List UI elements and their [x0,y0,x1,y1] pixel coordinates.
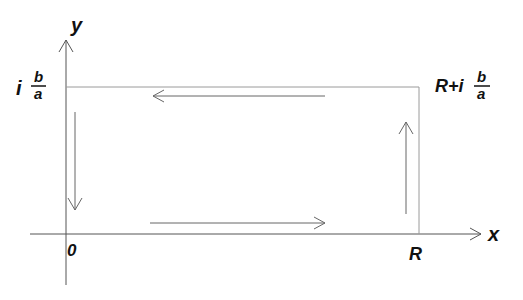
real-corner-label: R [409,244,422,264]
top-right-corner-label: R+i b a [435,68,490,102]
flow-arrow-left-down [68,112,82,210]
top-right-numerator: b [477,68,486,85]
x-axis-label: x [487,223,500,245]
origin-label: 0 [67,241,77,260]
top-right-denominator: a [477,85,485,102]
flow-arrow-top-left [153,90,325,102]
imag-corner-label: i b a [16,68,46,102]
imag-numerator: b [34,68,43,85]
x-axis [30,228,481,240]
flow-arrow-right-up [399,122,413,214]
contour-diagram: y x 0 R i b a R+i b a [0,0,523,300]
imag-prefix: i [16,77,22,99]
imag-denominator: a [34,85,42,102]
y-axis-label: y [70,14,83,36]
top-right-prefix: R+i [435,76,465,96]
contour-rectangle [66,87,419,234]
flow-arrow-bottom-right [150,217,325,229]
